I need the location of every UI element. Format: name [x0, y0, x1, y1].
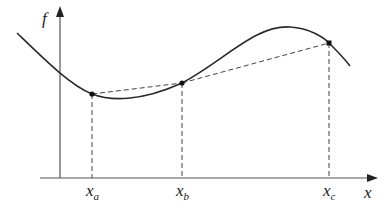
y-axis-label: f [42, 10, 47, 27]
y-axis-arrow-icon [56, 6, 64, 17]
secant-bc [182, 43, 329, 83]
point-a [89, 91, 94, 96]
function-curve [17, 27, 350, 99]
point-c [327, 41, 332, 46]
label-xc: xc [323, 182, 335, 202]
diagram-svg [0, 0, 389, 204]
point-b [179, 80, 184, 85]
label-xa: xa [86, 182, 99, 202]
x-axis-label: x [364, 184, 372, 201]
x-axis-arrow-icon [367, 174, 378, 182]
label-xb: xb [176, 182, 189, 202]
diagram-canvas: f x xa xb xc [0, 0, 389, 204]
